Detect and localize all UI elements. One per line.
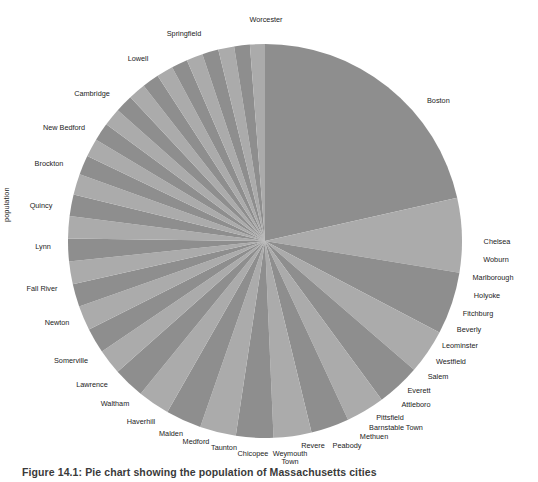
pie-slice-label: Methuen [360, 432, 388, 441]
pie-slice-label: Taunton [211, 443, 237, 452]
pie-slice-label: New Bedford [43, 123, 85, 132]
pie-slice-label: Everett [407, 386, 430, 395]
pie-slice-label: Brockton [35, 159, 64, 168]
pie-slice-label: Waltham [101, 399, 130, 408]
pie-slice-label: Marlborough [473, 273, 514, 282]
pie-slice-label: Quincy [30, 201, 53, 210]
pie-slice-label: Revere [301, 441, 325, 450]
pie-slice-label: Lowell [128, 54, 149, 63]
pie-slice-label: Fitchburg [463, 309, 493, 318]
pie-slice-label: Newton [45, 318, 70, 327]
pie-slice-label: Peabody [333, 441, 362, 450]
pie-slice-label: Town [281, 457, 298, 466]
pie-slice-label: Leominster [442, 341, 479, 350]
pie-slice-label: Worcester [249, 15, 283, 24]
pie-slice-label: Chicopee [238, 449, 269, 458]
pie-slice-label: Barnstable Town [369, 423, 423, 432]
pie-slice-label: Springfield [167, 29, 201, 38]
pie-slice-label: Westfield [436, 357, 466, 366]
pie-chart-svg: BostonWorcesterSpringfieldLowellCambridg… [0, 0, 538, 450]
figure-container: BostonWorcesterSpringfieldLowellCambridg… [0, 0, 538, 482]
pie-slice-label: Boston [427, 96, 450, 105]
pie-slice-label: Chelsea [484, 237, 512, 246]
pie-slices-group [68, 44, 462, 438]
pie-slice-label: Attleboro [401, 400, 430, 409]
figure-caption: Figure 14.1: Pie chart showing the popul… [22, 466, 522, 478]
pie-chart-plot-area: BostonWorcesterSpringfieldLowellCambridg… [0, 0, 538, 450]
pie-slice-label: Woburn [483, 255, 508, 264]
pie-slice-label: Cambridge [74, 89, 110, 98]
pie-slice-label: Salem [428, 372, 449, 381]
pie-slice-label: Somerville [54, 356, 88, 365]
pie-slice-label: Holyoke [474, 291, 500, 300]
pie-slice-label: Lynn [35, 242, 51, 251]
pie-slice-label: Haverhill [127, 417, 156, 426]
pie-slice-label: Pittsfield [376, 413, 404, 422]
y-axis-label: population [2, 187, 11, 222]
pie-slice-label: Beverly [457, 325, 482, 334]
pie-slice-label: Fall River [27, 284, 58, 293]
pie-slice-label: Lawrence [76, 380, 108, 389]
pie-slice-label: Malden [159, 429, 183, 438]
pie-slice-label: Medford [183, 437, 210, 446]
